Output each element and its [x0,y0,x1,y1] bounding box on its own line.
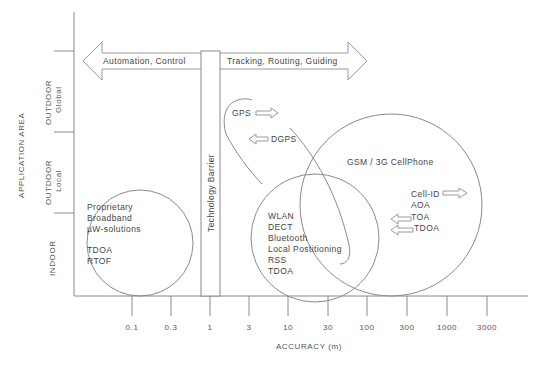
x-tick-label: 3 [246,323,251,332]
gps-loop-top [238,99,252,100]
arrow-left-icon [391,214,411,224]
region-text: Local Postitioning [268,244,342,254]
region-text: Bluetooth [268,233,308,243]
arrow-right-icon [443,188,467,198]
gsm-title: GSM / 3G CellPhone [347,157,434,167]
x-tick-label: 1 [207,323,212,332]
arrow-left-label: Automation, Control [103,56,186,66]
cell-method: TOA [411,212,430,222]
region-text: DECT [268,222,293,232]
arrow-left-icon [391,225,413,235]
zone-outdoor-global-l2: Global [54,86,63,113]
x-tick-label: 10 [283,323,293,332]
x-tick-label: 300 [399,323,414,332]
gsm-cellphone-circle [300,114,482,296]
cell-method: Cell-ID [411,189,440,199]
region-text: TDOA [268,266,293,276]
technology-barrier-label: Technology Barrier [206,154,216,232]
x-ticks [132,296,487,316]
dgps-label: DGPS [271,134,297,144]
zone-indoor: INDOOR [48,240,57,276]
cell-method: AOA [411,200,430,210]
region-text: TDOA [87,245,112,255]
x-tick-label: 30 [323,323,333,332]
arrow-right-icon [256,108,278,118]
region-text: Broadband [87,213,132,223]
cell-method: TDOA [414,223,439,233]
y-axis-title: APPLICATION AREA [17,112,26,198]
arrow-left-icon [249,134,268,144]
region-text: WLAN [268,211,294,221]
x-tick-label: 0.3 [165,323,178,332]
x-tick-label: 3000 [477,323,497,332]
region-text: µW-solutions [87,224,141,234]
arrow-right-label: Tracking, Routing, Guiding [227,56,338,66]
region-text: Proprietary [87,202,133,212]
gps-label: GPS [232,108,251,118]
x-tick-label: 0.1 [126,323,139,332]
x-axis-title: ACCURACY (m) [276,342,342,351]
positioning-technology-diagram: APPLICATION AREA OUTDOOR Global OUTDOOR … [0,0,547,365]
x-tick-labels: 0.1 0.3 1 3 10 30 100 300 1000 3000 [126,323,498,332]
zone-outdoor-local-l1: OUTDOOR [44,160,53,205]
x-tick-label: 1000 [437,323,457,332]
zone-outdoor-local-l2: Local [54,170,63,192]
region-text: RTOF [87,256,111,266]
zone-outdoor-global-l1: OUTDOOR [44,80,53,125]
region-text: RSS [268,255,287,265]
x-tick-label: 100 [359,323,374,332]
